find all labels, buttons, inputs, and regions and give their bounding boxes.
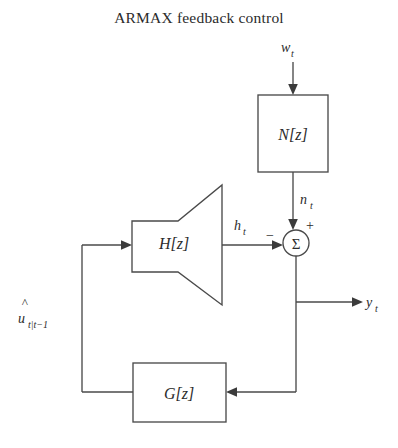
signal-sub-n: t	[310, 200, 313, 211]
sum-minus-sign: −	[266, 228, 274, 243]
signal-label-h: h	[234, 218, 241, 233]
figure-title: ARMAX feedback control	[114, 9, 284, 26]
block-n-label: N[z]	[277, 126, 307, 143]
armax-feedback-control-figure: ARMAX feedback control w t N[z] n t + Σ …	[0, 0, 398, 448]
signal-sub-w: t	[291, 48, 294, 59]
arrowhead-into-h	[121, 240, 132, 250]
signal-sub-u: t|t−1	[28, 319, 48, 330]
summing-junction-symbol: Σ	[292, 236, 301, 252]
arrowhead-y-out	[352, 297, 363, 307]
arrowhead-w-to-n	[288, 84, 298, 95]
arrowhead-n-to-sum	[288, 219, 298, 230]
signal-label-n: n	[300, 192, 307, 207]
signal-label-y: y	[364, 295, 373, 310]
signal-sub-y: t	[375, 303, 378, 314]
block-diagram-canvas: ARMAX feedback control w t N[z] n t + Σ …	[0, 0, 398, 448]
arrowhead-into-g	[226, 387, 237, 397]
block-g-label: G[z]	[164, 385, 194, 402]
signal-label-u: u	[18, 311, 25, 326]
sum-plus-sign: +	[306, 218, 314, 233]
signal-sub-h: t	[243, 226, 246, 237]
signal-label-w: w	[281, 40, 291, 55]
block-h-label: H[z]	[158, 235, 189, 252]
signal-hat-u: ˄	[22, 295, 29, 309]
